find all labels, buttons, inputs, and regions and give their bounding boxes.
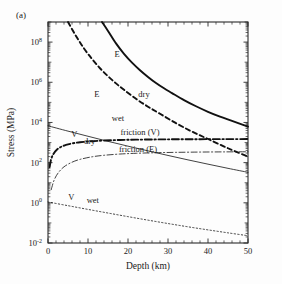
- panel-label: (a): [16, 10, 26, 20]
- y-tick-label: 102: [31, 157, 43, 167]
- curve-label-friction-v: friction (V): [121, 127, 160, 137]
- x-tick-label: 30: [164, 246, 173, 256]
- x-tick-label: 50: [244, 246, 253, 256]
- curve-label-friction-e: friction (E): [119, 144, 157, 154]
- y-tick-label: 108: [31, 37, 43, 47]
- x-tick-label: 0: [46, 246, 50, 256]
- strength-profile-figure: 0102030405010-2100102104106108 EdryEwetf…: [0, 0, 282, 284]
- y-tick-label: 100: [31, 197, 43, 207]
- x-tick-label: 40: [204, 246, 213, 256]
- curve-sublabel-v-wet: wet: [87, 195, 100, 205]
- y-tick-label: 106: [31, 77, 43, 87]
- stress-depth-plot: 0102030405010-2100102104106108 EdryEwetf…: [0, 0, 282, 284]
- curve-friction-e: [51, 152, 248, 190]
- curve-label-v-dry: V: [71, 129, 78, 139]
- curve-sublabel-e-dry: dry: [138, 89, 150, 99]
- curve-annotations: EdryEwetfriction (V)friction (E)VdryVwet: [68, 49, 160, 205]
- curve-v-wet: [48, 202, 248, 236]
- y-tick-label: 10-2: [29, 238, 43, 248]
- curve-label-e-wet: E: [94, 89, 99, 99]
- curve-label-v-wet: V: [68, 192, 75, 202]
- curve-e-dry: [102, 22, 248, 127]
- x-tick-label: 20: [124, 246, 133, 256]
- curve-sublabel-e-wet: wet: [112, 113, 125, 123]
- x-tick-label: 10: [84, 246, 93, 256]
- curve-label-e-dry: E: [115, 49, 120, 59]
- x-axis-title: Depth (km): [126, 261, 170, 272]
- y-axis-title: Stress (MPa): [6, 108, 17, 157]
- curve-sublabel-v-dry: dry: [84, 136, 96, 146]
- y-tick-label: 104: [31, 117, 43, 127]
